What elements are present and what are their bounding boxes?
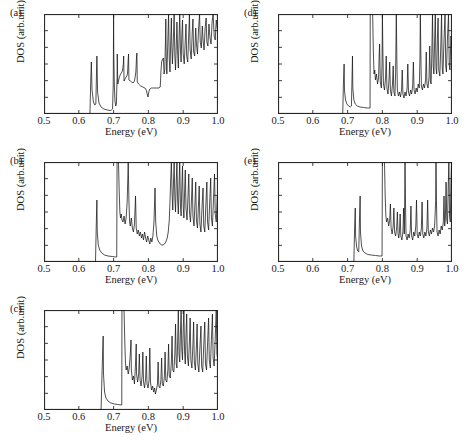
x-tick-label: 0.9 [177,263,190,274]
panel-a: (a) DOS (arb.unit) 0.50.60.70.80.91.0 En… [0,0,234,148]
x-tick-label: 1.0 [445,115,458,126]
x-tick-label: 0.6 [72,411,85,422]
y-axis-label-a: DOS (arb.unit) [15,0,26,80]
dos-figure: (a) DOS (arb.unit) 0.50.60.70.80.91.0 En… [0,0,468,445]
x-tick-label: 0.5 [271,263,284,274]
x-axis-label-d: Energy (eV) [278,126,452,137]
y-axis-label-d: DOS (arb.unit) [249,0,260,80]
x-tick-label: 0.6 [306,115,319,126]
plot-area-d [278,14,452,114]
dos-curve-e [278,162,452,262]
x-axis-label-c: Energy (eV) [44,422,218,433]
x-tick-label: 0.8 [376,263,389,274]
x-tick-label: 1.0 [211,115,224,126]
panel-e: (e) DOS (arb.unit) 0.50.60.70.80.91.0 En… [234,148,468,296]
x-tick-label: 0.6 [72,115,85,126]
plot-svg-a [44,14,218,114]
plot-frame [45,15,218,114]
y-axis-label-b: DOS (arb.unit) [15,132,26,228]
plot-frame [279,163,452,262]
x-tick-label: 0.7 [107,115,120,126]
x-tick-label: 0.5 [37,411,50,422]
x-tick-label: 0.6 [72,263,85,274]
x-tick-label: 0.5 [37,263,50,274]
dos-curve-c [44,310,218,410]
plot-area-b [44,162,218,262]
x-tick-label: 0.5 [37,115,50,126]
dos-curve-b [44,162,218,262]
x-tick-label: 0.7 [341,115,354,126]
plot-frame [279,15,452,114]
panel-d: (d) DOS (arb.unit) 0.50.60.70.80.91.0 En… [234,0,468,148]
panel-b: (b) DOS (arb.unit) 0.50.60.70.80.91.0 En… [0,148,234,296]
x-axis-label-e: Energy (eV) [278,274,452,285]
plot-svg-b [44,162,218,262]
x-tick-label: 0.9 [177,115,190,126]
y-axis-label-c: DOS (arb.unit) [15,280,26,376]
plot-svg-d [278,14,452,114]
axes-frame-b [44,162,218,262]
x-tick-label: 0.8 [376,115,389,126]
x-tick-label: 0.9 [411,115,424,126]
dos-curve-a [44,14,218,114]
x-tick-label: 0.9 [177,411,190,422]
axes-frame-a [44,14,218,114]
x-tick-label: 1.0 [445,263,458,274]
x-tick-label: 0.8 [142,263,155,274]
x-tick-label: 0.8 [142,115,155,126]
plot-area-e [278,162,452,262]
y-axis-label-e: DOS (arb.unit) [249,132,260,228]
x-tick-label: 0.7 [341,263,354,274]
x-tick-label: 0.8 [142,411,155,422]
plot-svg-c [44,310,218,410]
plot-svg-e [278,162,452,262]
x-tick-label: 0.7 [107,411,120,422]
x-axis-label-a: Energy (eV) [44,126,218,137]
x-axis-label-b: Energy (eV) [44,274,218,285]
x-tick-label: 0.6 [306,263,319,274]
x-tick-label: 1.0 [211,411,224,422]
axes-frame-e [278,162,452,262]
x-tick-label: 0.7 [107,263,120,274]
plot-area-a [44,14,218,114]
panel-c: (c) DOS (arb.unit) 0.50.60.70.80.91.0 En… [0,296,234,444]
plot-frame [45,163,218,262]
dos-curve-d [278,14,452,114]
plot-area-c [44,310,218,410]
x-tick-label: 1.0 [211,263,224,274]
x-tick-label: 0.9 [411,263,424,274]
x-tick-label: 0.5 [271,115,284,126]
